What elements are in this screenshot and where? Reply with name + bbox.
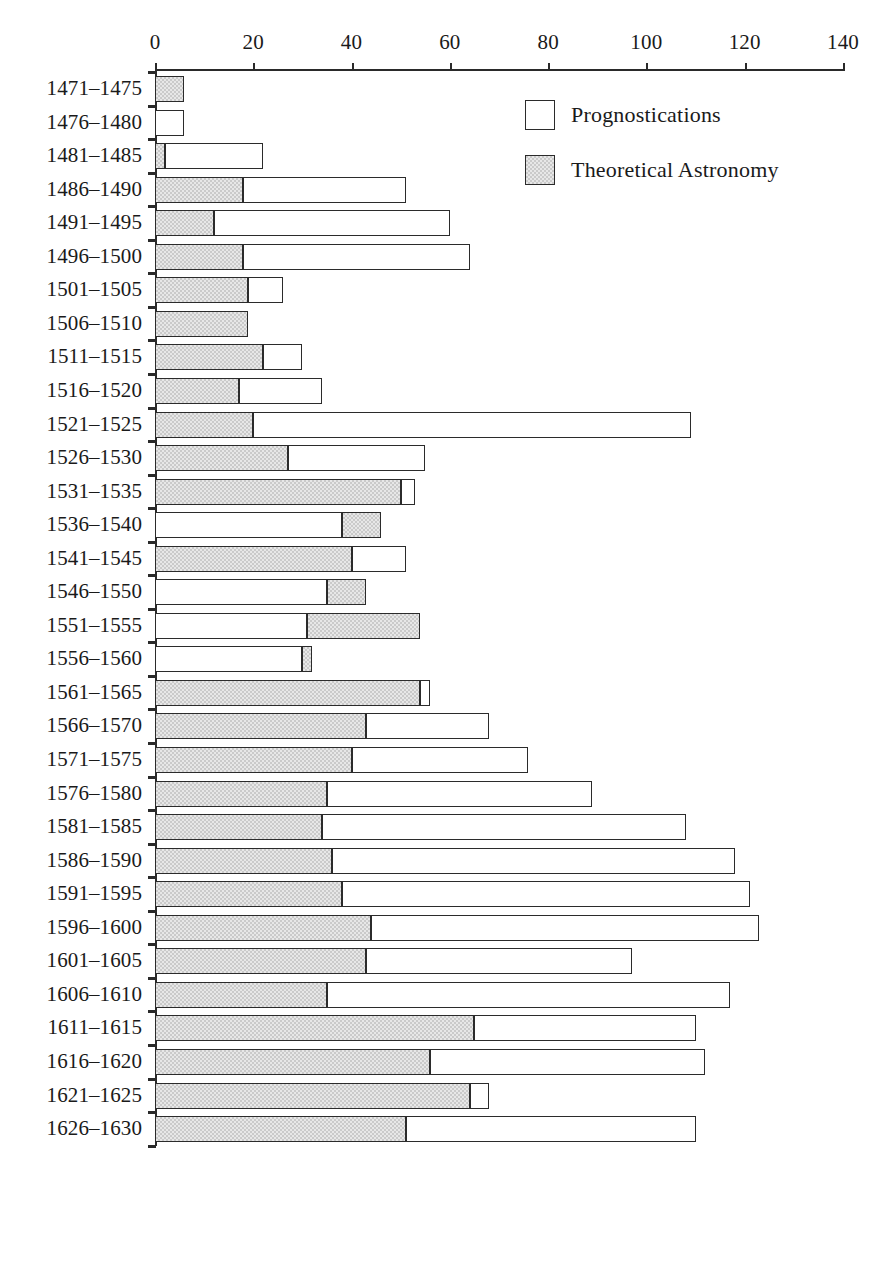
bar-segment[interactable] bbox=[155, 177, 243, 203]
x-tick-mark bbox=[548, 63, 550, 70]
bar-segment[interactable] bbox=[155, 512, 342, 538]
bar-segment[interactable] bbox=[352, 546, 406, 572]
bar-row: 1626–1630 bbox=[0, 1116, 895, 1142]
bar-segment[interactable] bbox=[327, 579, 366, 605]
bar-row: 1546–1550 bbox=[0, 579, 895, 605]
y-tick-mark bbox=[148, 943, 156, 946]
bar-row: 1571–1575 bbox=[0, 747, 895, 773]
bar-segment[interactable] bbox=[239, 378, 323, 404]
y-tick-mark bbox=[148, 105, 156, 108]
bar-segment[interactable] bbox=[155, 479, 401, 505]
bar-segment[interactable] bbox=[155, 277, 248, 303]
bar-segment[interactable] bbox=[155, 982, 327, 1008]
y-axis-category-label: 1506–1510 bbox=[47, 311, 142, 336]
x-tick-mark bbox=[450, 63, 452, 70]
bar-segment[interactable] bbox=[155, 110, 184, 136]
bar-segment[interactable] bbox=[366, 948, 631, 974]
stacked-bar-chart: 020406080100120140 1471–14751476–1480148… bbox=[0, 0, 895, 1282]
bar-segment[interactable] bbox=[322, 814, 686, 840]
bar-segment[interactable] bbox=[243, 177, 405, 203]
bar-segment[interactable] bbox=[155, 244, 243, 270]
bar-segment[interactable] bbox=[263, 344, 302, 370]
y-axis-category-label: 1551–1555 bbox=[47, 613, 142, 638]
bar-row: 1616–1620 bbox=[0, 1049, 895, 1075]
bar-segment[interactable] bbox=[155, 378, 239, 404]
bar-segment[interactable] bbox=[371, 915, 759, 941]
bar-segment[interactable] bbox=[332, 848, 735, 874]
bar-segment[interactable] bbox=[474, 1015, 695, 1041]
bar-segment[interactable] bbox=[155, 646, 302, 672]
bar-segment[interactable] bbox=[155, 881, 342, 907]
bar-segment[interactable] bbox=[155, 76, 184, 102]
x-tick-mark bbox=[843, 63, 845, 70]
bar-segment[interactable] bbox=[214, 210, 450, 236]
bar-segment[interactable] bbox=[342, 512, 381, 538]
bar-segment[interactable] bbox=[155, 143, 165, 169]
bar-segment[interactable] bbox=[470, 1083, 490, 1109]
bar-segment[interactable] bbox=[406, 1116, 696, 1142]
bar-segment[interactable] bbox=[165, 143, 263, 169]
bar-segment[interactable] bbox=[155, 814, 322, 840]
bar-segment[interactable] bbox=[366, 713, 489, 739]
bar-segment[interactable] bbox=[302, 646, 312, 672]
bar-segment[interactable] bbox=[352, 747, 529, 773]
bar-segment[interactable] bbox=[155, 311, 248, 337]
bar-segment[interactable] bbox=[155, 613, 307, 639]
bar-segment[interactable] bbox=[253, 412, 690, 438]
bar-segment[interactable] bbox=[155, 344, 263, 370]
bar-segment[interactable] bbox=[155, 210, 214, 236]
bar-segment[interactable] bbox=[327, 781, 592, 807]
bar-segment[interactable] bbox=[342, 881, 750, 907]
bar-segment[interactable] bbox=[155, 1015, 474, 1041]
y-axis-category-label: 1561–1565 bbox=[47, 680, 142, 705]
y-axis-category-label: 1571–1575 bbox=[47, 747, 142, 772]
bar-segment[interactable] bbox=[155, 848, 332, 874]
bar-row: 1581–1585 bbox=[0, 814, 895, 840]
y-axis-category-label: 1611–1615 bbox=[47, 1015, 142, 1040]
bar-segment[interactable] bbox=[155, 445, 288, 471]
y-axis-category-label: 1486–1490 bbox=[47, 177, 142, 202]
bar-segment[interactable] bbox=[307, 613, 420, 639]
y-tick-mark bbox=[148, 373, 156, 376]
bar-segment[interactable] bbox=[155, 579, 327, 605]
y-tick-mark bbox=[148, 272, 156, 275]
bar-segment[interactable] bbox=[155, 1116, 406, 1142]
bar-segment[interactable] bbox=[155, 546, 352, 572]
bar-segment[interactable] bbox=[155, 680, 420, 706]
bar-segment[interactable] bbox=[155, 1083, 470, 1109]
bar-segment[interactable] bbox=[420, 680, 430, 706]
bar-row: 1566–1570 bbox=[0, 713, 895, 739]
legend-item[interactable]: Prognostications bbox=[525, 100, 721, 130]
bar-segment[interactable] bbox=[401, 479, 416, 505]
legend-label: Prognostications bbox=[571, 102, 721, 128]
bar-segment[interactable] bbox=[155, 1049, 430, 1075]
x-axis-line bbox=[155, 69, 845, 71]
bar-segment[interactable] bbox=[155, 412, 253, 438]
y-axis-category-label: 1596–1600 bbox=[47, 915, 142, 940]
bar-segment[interactable] bbox=[327, 982, 730, 1008]
y-axis-category-label: 1606–1610 bbox=[47, 982, 142, 1007]
bar-row: 1551–1555 bbox=[0, 613, 895, 639]
y-tick-mark bbox=[148, 1010, 156, 1013]
y-tick-mark bbox=[148, 574, 156, 577]
bar-row: 1541–1545 bbox=[0, 546, 895, 572]
bar-segment[interactable] bbox=[155, 781, 327, 807]
bar-segment[interactable] bbox=[155, 948, 366, 974]
y-tick-mark bbox=[148, 541, 156, 544]
y-tick-mark bbox=[148, 742, 156, 745]
x-tick-label: 0 bbox=[150, 30, 161, 55]
x-axis-tick-labels: 020406080100120140 bbox=[0, 0, 895, 30]
x-tick-mark bbox=[352, 63, 354, 70]
bar-segment[interactable] bbox=[248, 277, 282, 303]
y-tick-mark bbox=[148, 1111, 156, 1114]
bar-row: 1526–1530 bbox=[0, 445, 895, 471]
y-tick-mark bbox=[148, 306, 156, 309]
bar-segment[interactable] bbox=[155, 747, 352, 773]
bar-segment[interactable] bbox=[155, 915, 371, 941]
bar-segment[interactable] bbox=[288, 445, 426, 471]
bar-segment[interactable] bbox=[243, 244, 469, 270]
bar-segment[interactable] bbox=[155, 713, 366, 739]
bar-row: 1591–1595 bbox=[0, 881, 895, 907]
legend-item[interactable]: Theoretical Astronomy bbox=[525, 155, 779, 185]
bar-segment[interactable] bbox=[430, 1049, 705, 1075]
